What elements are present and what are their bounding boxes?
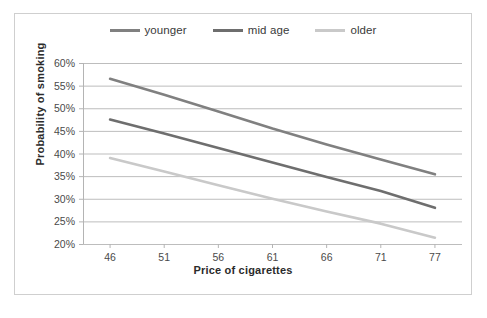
series-line-older [110,158,435,238]
series-lines [110,79,435,238]
y-tick-labels: 60%55%50%45%40%35%30%25%20% [54,57,75,250]
y-axis-title: Probability of smoking [34,24,46,184]
y-tick-label: 50% [54,102,75,114]
x-tick-label: 61 [267,251,279,263]
y-tick-label: 40% [54,148,75,160]
y-tick-label: 55% [54,80,75,92]
series-line-younger [110,79,435,174]
x-tick-label: 51 [158,251,170,263]
x-tick-label: 46 [104,251,116,263]
y-tick-label: 30% [54,193,75,205]
x-tick-label: 66 [321,251,333,263]
chart-svg: 60%55%50%45%40%35%30%25%20% 465156616671… [15,14,473,296]
plot-area: 60%55%50%45%40%35%30%25%20% 465156616671… [15,14,471,294]
y-tick-label: 20% [54,238,75,250]
x-axis-title: Price of cigarettes [15,264,471,276]
x-tick-label: 56 [213,251,225,263]
y-tick-label: 25% [54,215,75,227]
y-tick-label: 60% [54,57,75,69]
y-tick-label: 35% [54,170,75,182]
x-tick-label: 77 [429,251,441,263]
y-tick-label: 45% [54,125,75,137]
chart-figure: younger mid age older 60%55%50%45%40%35%… [14,13,472,295]
x-tick-labels: 46515661667177 [104,251,441,263]
gridlines [79,64,462,245]
x-tick-label: 71 [375,251,387,263]
series-line-mid-age [110,120,435,208]
